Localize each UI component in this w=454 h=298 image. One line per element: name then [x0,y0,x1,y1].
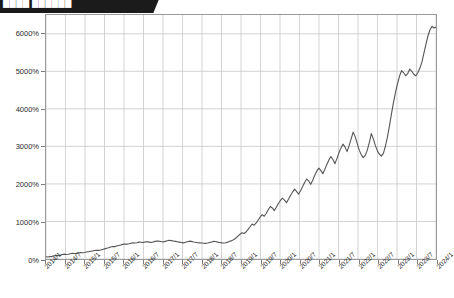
x-tick-mark [104,260,105,264]
y-tick-label: 6000% [1,28,39,37]
header-banner: ████ ██████ [0,0,165,13]
x-tick-mark [339,260,340,264]
line-chart: 0%1000%2000%3000%4000%5000%6000% 2014/12… [0,13,450,298]
x-tick-mark [123,260,124,264]
x-tick-mark [163,260,164,264]
plot-area [45,14,437,260]
x-tick-mark [65,260,66,264]
x-tick-mark [319,260,320,264]
x-tick-mark [261,260,262,264]
x-tick-mark [398,260,399,264]
x-tick-mark [221,260,222,264]
x-tick-mark [417,260,418,264]
y-tick-label: 2000% [1,180,39,189]
x-tick-mark [182,260,183,264]
x-tick-mark [359,260,360,264]
x-tick-mark [280,260,281,264]
x-tick-mark [300,260,301,264]
y-tick-label: 5000% [1,66,39,75]
x-tick-mark [45,260,46,264]
x-tick-mark [143,260,144,264]
y-tick-label: 3000% [1,142,39,151]
x-tick-mark [378,260,379,264]
x-tick-label: 2024/1 [435,251,454,270]
x-tick-mark [241,260,242,264]
y-tick-label: 4000% [1,104,39,113]
y-tick-label: 1000% [1,218,39,227]
header-title: ████ ██████ [3,0,71,7]
x-tick-mark [84,260,85,264]
x-tick-mark [202,260,203,264]
x-tick-mark [437,260,438,264]
y-tick-mark [41,260,45,261]
y-tick-label: 0% [1,256,39,265]
data-series-line [46,15,436,259]
